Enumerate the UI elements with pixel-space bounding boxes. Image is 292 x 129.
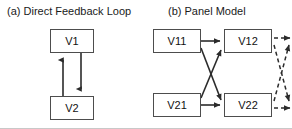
panel-panel-model: (b) Panel Model — [146, 0, 292, 129]
node-v21-label: V21 — [167, 100, 187, 111]
node-v12-label: V12 — [238, 36, 258, 47]
node-v2-label: V2 — [65, 103, 78, 114]
node-v22: V22 — [224, 93, 272, 117]
node-v21: V21 — [153, 93, 201, 117]
node-v1-label: V1 — [65, 36, 78, 47]
node-v22-label: V22 — [238, 100, 258, 111]
node-v1: V1 — [50, 29, 94, 53]
node-v11: V11 — [153, 29, 201, 53]
node-v2: V2 — [50, 96, 94, 120]
node-v11-label: V11 — [168, 36, 187, 47]
node-v12: V12 — [224, 29, 272, 53]
path-diagram-figure: (a) Direct Feedback Loop V1 V2 (b) Pan — [0, 0, 292, 129]
panel-direct-feedback-loop: (a) Direct Feedback Loop V1 V2 — [0, 0, 146, 129]
